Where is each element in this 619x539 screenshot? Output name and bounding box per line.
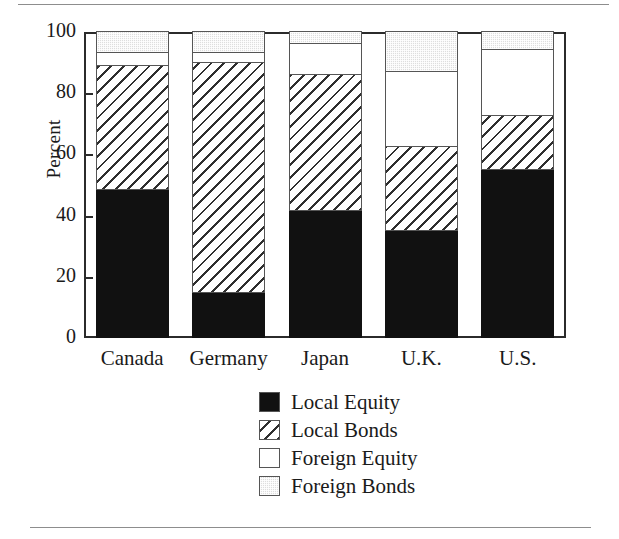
legend-item[interactable]: Foreign Equity <box>259 444 418 472</box>
bar-segment-local-bonds <box>96 65 169 190</box>
x-tick-label: Japan <box>277 346 373 371</box>
bar-segment-local-bonds <box>385 146 458 231</box>
bar-segment-local-equity <box>289 210 362 338</box>
legend-swatch-foreign-equity-icon <box>259 448 280 468</box>
bar-segment-local-bonds <box>481 115 554 170</box>
bar-segment-local-equity <box>192 292 265 338</box>
legend-swatch-local-bonds-icon <box>259 420 280 440</box>
bar-japan[interactable] <box>289 32 362 338</box>
bar-segment-local-equity <box>385 230 458 338</box>
bar-segment-local-bonds <box>289 74 362 211</box>
bar-segment-foreign-equity <box>481 49 554 116</box>
legend-label: Local Bonds <box>291 420 398 441</box>
bars-layer <box>84 32 566 338</box>
bar-segment-local-bonds <box>192 62 265 293</box>
bar-germany[interactable] <box>192 32 265 338</box>
legend-label: Foreign Bonds <box>291 476 415 497</box>
bar-segment-local-equity <box>96 189 169 338</box>
y-tick-label: 20 <box>28 265 76 285</box>
chart-legend: Local EquityLocal BondsForeign EquityFor… <box>259 388 418 500</box>
x-tick-label: Germany <box>180 346 276 371</box>
legend-item[interactable]: Local Bonds <box>259 416 418 444</box>
bar-segment-foreign-bonds <box>96 31 169 53</box>
x-tick-label: U.S. <box>470 346 566 371</box>
bar-segment-foreign-equity <box>192 52 265 62</box>
legend-item[interactable]: Foreign Bonds <box>259 472 418 500</box>
bar-segment-foreign-equity <box>96 52 169 65</box>
x-tick-label: Canada <box>84 346 180 371</box>
bar-u-k[interactable] <box>385 32 458 338</box>
bar-u-s[interactable] <box>481 32 554 338</box>
y-tick-label: 100 <box>28 20 76 40</box>
legend-label: Foreign Equity <box>291 448 418 469</box>
legend-label: Local Equity <box>291 392 400 413</box>
y-tick-label: 40 <box>28 204 76 224</box>
bar-segment-foreign-equity <box>385 71 458 147</box>
bottom-divider-rule <box>30 527 591 528</box>
legend-swatch-foreign-bonds-icon <box>259 476 280 496</box>
legend-swatch-local-equity-icon <box>259 392 280 412</box>
bar-segment-foreign-bonds <box>192 31 265 53</box>
legend-item[interactable]: Local Equity <box>259 388 418 416</box>
bar-segment-local-equity <box>481 169 554 338</box>
bar-segment-foreign-equity <box>289 43 362 75</box>
bar-segment-foreign-bonds <box>481 31 554 50</box>
y-tick-label: 60 <box>28 142 76 162</box>
stacked-bar-chart-figure: Percent 020406080100 CanadaGermanyJapanU… <box>0 0 619 539</box>
bar-segment-foreign-bonds <box>385 31 458 72</box>
bar-canada[interactable] <box>96 32 169 338</box>
y-tick-label: 0 <box>28 326 76 346</box>
y-tick-label: 80 <box>28 81 76 101</box>
x-tick-label: U.K. <box>373 346 469 371</box>
bar-segment-foreign-bonds <box>289 31 362 44</box>
